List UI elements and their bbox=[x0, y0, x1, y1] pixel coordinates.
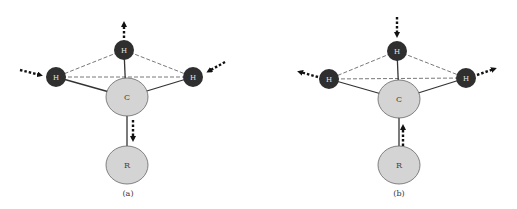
r-group-atom: R bbox=[106, 146, 148, 184]
arrow-right-icon bbox=[20, 70, 40, 75]
r-group-label: R bbox=[124, 161, 131, 170]
r-group-atom: R bbox=[378, 146, 420, 184]
vibration-modes-diagram: C R H H H (a) bbox=[0, 0, 517, 209]
hydrogen-right: H bbox=[456, 68, 476, 88]
panel-a: C R H H H (a) bbox=[20, 24, 225, 198]
hydrogen-label: H bbox=[394, 48, 400, 56]
hydrogen-right: H bbox=[183, 67, 203, 87]
carbon-atom: C bbox=[106, 78, 148, 116]
carbon-atom: C bbox=[378, 80, 420, 118]
hydrogen-top: H bbox=[387, 41, 407, 61]
hydrogen-label: H bbox=[190, 74, 196, 82]
arrow-right-icon bbox=[477, 69, 494, 75]
carbon-label: C bbox=[124, 93, 130, 102]
panel-a-caption: (a) bbox=[122, 189, 133, 198]
hydrogen-label: H bbox=[121, 47, 127, 55]
hydrogen-label: H bbox=[53, 74, 59, 82]
hydrogen-left: H bbox=[46, 67, 66, 87]
hydrogen-label: H bbox=[463, 75, 469, 83]
r-group-label: R bbox=[396, 161, 403, 170]
hydrogen-top: H bbox=[114, 40, 134, 60]
arrow-left-icon bbox=[209, 62, 225, 71]
panel-b-caption: (b) bbox=[393, 189, 404, 198]
hydrogen-left: H bbox=[319, 69, 339, 89]
hydrogen-label: H bbox=[326, 76, 332, 84]
arrow-left-icon bbox=[300, 72, 318, 77]
carbon-label: C bbox=[396, 95, 402, 104]
panel-b: C R H H H (b) bbox=[300, 17, 494, 198]
